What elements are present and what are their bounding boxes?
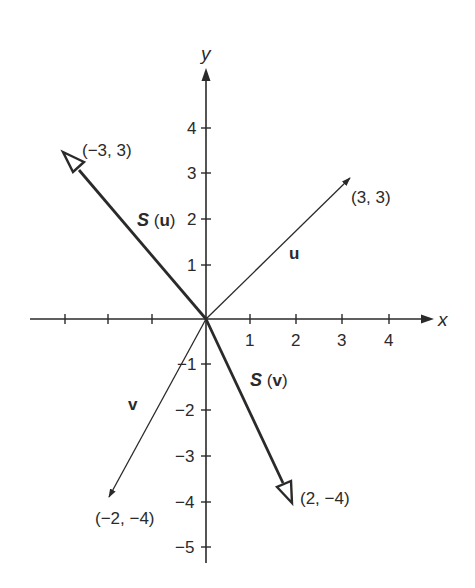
open-arrowhead-icon [277, 481, 292, 503]
y-tick-label-neg5: −5 [175, 538, 194, 557]
x-axis-label: x [437, 309, 449, 330]
y-tick-label-neg3: −3 [175, 447, 194, 466]
vector-S-of-u-endpoint-label: (−3, 3) [82, 141, 132, 160]
vector-S-of-v: S (v) (2, −4) [206, 319, 350, 508]
x-axis: x 1 2 3 4 [30, 309, 449, 350]
y-tick-label-neg1: −1 [177, 355, 196, 374]
vector-S-of-v-label: S (v) [250, 370, 288, 390]
y-tick-label-3: 3 [187, 164, 196, 183]
y-axis-label: y [199, 43, 212, 64]
open-arrowhead-icon [63, 152, 84, 172]
vector-transformation-diagram: x 1 2 3 4 y 4 3 [0, 0, 475, 588]
vector-v-label: v [128, 395, 138, 414]
vector-u-label: u [289, 244, 299, 263]
y-axis-arrow-icon [202, 68, 211, 81]
vector-v-endpoint-label: (−2, −4) [95, 509, 155, 528]
vector-S-of-v-endpoint-label: (2, −4) [300, 489, 350, 508]
x-tick-label-2: 2 [291, 331, 300, 350]
y-tick-label-1: 1 [187, 256, 196, 275]
vector-S-of-u-label: S (u) [137, 210, 175, 230]
x-tick-label-1: 1 [245, 331, 254, 350]
vector-u-endpoint-label: (3, 3) [351, 188, 391, 207]
x-tick-label-4: 4 [384, 331, 393, 350]
x-tick-label-3: 3 [337, 331, 346, 350]
y-tick-label-2: 2 [187, 210, 196, 229]
vector-u: u (3, 3) [206, 178, 391, 319]
vector-S-of-u: S (u) (−3, 3) [63, 141, 206, 319]
y-tick-label-4: 4 [187, 119, 196, 138]
y-tick-label-neg2: −2 [175, 401, 194, 420]
x-axis-arrow-icon [421, 315, 434, 324]
y-tick-label-neg4: −4 [175, 493, 194, 512]
